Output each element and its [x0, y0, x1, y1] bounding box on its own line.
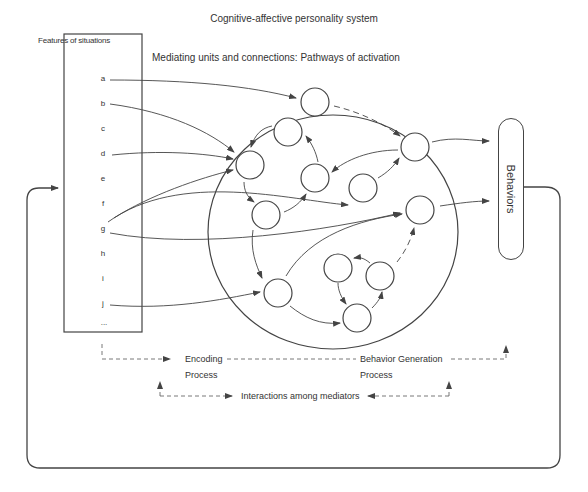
- feature-h: h: [98, 249, 108, 258]
- link-5-to-3: [306, 136, 318, 162]
- unit-node-1: [301, 88, 329, 116]
- behavior-gen-right-dash: [451, 346, 506, 359]
- feature-c: c: [98, 124, 108, 133]
- feature-f: f: [98, 199, 108, 208]
- feature-d: d: [98, 149, 108, 158]
- behaviors-label: Behaviors: [505, 165, 517, 214]
- link-1-to-2-dashed: [334, 106, 400, 136]
- arrow-d-to-unit-4: [112, 152, 233, 159]
- unit-node-4: [236, 151, 264, 179]
- encoding-process-label-1: Encoding: [185, 351, 223, 367]
- link-7-to-11: [252, 230, 262, 278]
- link-10-to-9: [354, 258, 370, 263]
- mediating-unit-nodes: [236, 88, 434, 332]
- arrow-a-to-unit-1: [110, 80, 296, 98]
- interactions-label: Interactions among mediators: [241, 388, 360, 404]
- link-6-to-2: [378, 158, 399, 178]
- unit-node-6: [349, 174, 377, 202]
- features-box-title: Features of situations: [38, 36, 110, 45]
- arrow-g-to-unit-6: [108, 192, 348, 222]
- encoding-process-label-2: Process: [185, 367, 218, 383]
- unit-node-5: [301, 164, 329, 192]
- link-10-to-8-dashed: [397, 228, 414, 262]
- unit-node-7: [252, 201, 280, 229]
- feature-j: j: [98, 299, 108, 308]
- feature-g: g: [98, 224, 108, 233]
- behaviors-box: Behaviors: [498, 118, 524, 260]
- link-12-to-10: [372, 292, 382, 308]
- unit-node-8: [406, 196, 434, 224]
- feature-e: e: [98, 174, 108, 183]
- unit-node-3: [274, 118, 302, 146]
- link-2-to-5: [332, 150, 398, 172]
- unit-node-10: [366, 262, 394, 290]
- behavior-generation-label-1: Behavior Generation: [360, 351, 443, 367]
- feature-i: i: [98, 274, 108, 283]
- feature-ellipsis: ...: [97, 318, 111, 327]
- unit-node-11: [264, 279, 292, 307]
- unit-node-12: [343, 304, 371, 332]
- link-11-to-12: [290, 306, 340, 323]
- unit-node-9: [324, 254, 352, 282]
- diagram-title: Cognitive-affective personality system: [0, 13, 588, 24]
- arrow-b-to-unit-4: [110, 104, 234, 152]
- output-unit-2-to-behaviors: [432, 139, 489, 142]
- arrow-j-to-unit-11: [110, 292, 260, 306]
- feature-b: b: [98, 99, 108, 108]
- link-4-to-7: [244, 182, 254, 202]
- output-unit-8-to-behaviors: [440, 201, 489, 206]
- link-9-to-12: [338, 283, 346, 304]
- feature-a: a: [98, 74, 108, 83]
- diagram-subtitle: Mediating units and connections: Pathway…: [152, 52, 400, 63]
- unit-node-2: [401, 133, 429, 161]
- behavior-generation-label-2: Process: [360, 367, 393, 383]
